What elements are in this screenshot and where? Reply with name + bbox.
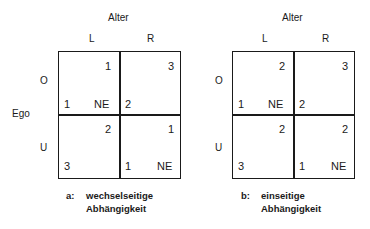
- ego-payoff: 1: [64, 99, 70, 110]
- ego-payoff: 3: [238, 161, 244, 172]
- alter-payoff: 1: [105, 61, 111, 72]
- ne-marker: NE: [268, 99, 283, 110]
- ne-marker: NE: [331, 161, 346, 172]
- caption-line1: wechselseitige: [86, 189, 153, 202]
- ne-marker: NE: [157, 161, 172, 172]
- divider: [59, 114, 180, 116]
- ego-payoff: 1: [125, 161, 131, 172]
- divider: [233, 114, 354, 116]
- alter-payoff: 2: [105, 124, 111, 135]
- caption-line2: Abhängigkeit: [86, 202, 146, 215]
- row-label-u: U: [215, 143, 222, 153]
- alter-payoff: 1: [168, 124, 174, 135]
- caption-prefix: a:: [66, 189, 74, 202]
- alter-payoff: 2: [279, 61, 285, 72]
- alter-axis-label: Alter: [282, 13, 303, 23]
- alter-payoff: 2: [279, 124, 285, 135]
- caption-prefix: b:: [241, 189, 250, 202]
- column-label-r: R: [147, 34, 154, 44]
- ne-marker: NE: [94, 99, 109, 110]
- caption-b: b: einseitige Abhängigkeit: [241, 189, 361, 219]
- ego-payoff: 1: [299, 161, 305, 172]
- payoff-grid: 2 1 NE 3 2 2 3 2 1 NE: [232, 51, 355, 179]
- ego-payoff: 3: [64, 161, 70, 172]
- caption-line2: Abhängigkeit: [261, 202, 321, 215]
- ego-payoff: 2: [125, 99, 131, 110]
- column-label-r: R: [322, 34, 329, 44]
- row-label-o: O: [40, 76, 48, 86]
- caption-a: a: wechselseitige Abhängigkeit: [66, 189, 186, 219]
- row-label-o: O: [215, 76, 223, 86]
- ego-payoff: 1: [238, 99, 244, 110]
- ego-payoff: 2: [299, 99, 305, 110]
- column-label-l: L: [89, 34, 95, 44]
- row-label-u: U: [40, 143, 47, 153]
- alter-payoff: 3: [168, 61, 174, 72]
- payoff-grid: 1 1 NE 3 2 2 3 1 1 NE: [58, 51, 181, 179]
- alter-payoff: 3: [342, 61, 348, 72]
- caption-line1: einseitige: [261, 189, 305, 202]
- column-label-l: L: [262, 34, 268, 44]
- alter-payoff: 2: [342, 124, 348, 135]
- ego-axis-label: Ego: [12, 109, 30, 119]
- alter-axis-label: Alter: [108, 13, 129, 23]
